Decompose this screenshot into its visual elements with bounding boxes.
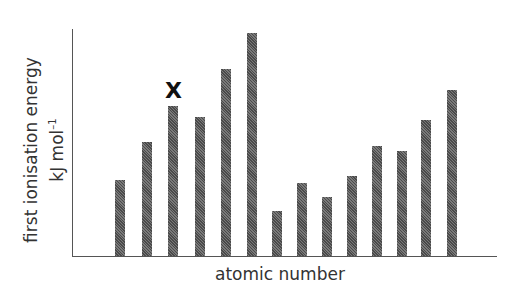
x-axis-label: atomic number <box>215 264 345 284</box>
bar <box>372 146 382 256</box>
y-axis-title: first ionisation energy <box>21 30 42 270</box>
bar <box>247 33 257 256</box>
bar <box>297 183 307 256</box>
y-axis-units: kJ mol–1 <box>42 30 68 270</box>
x-axis <box>72 256 497 257</box>
bar <box>447 90 457 256</box>
bar <box>195 117 205 256</box>
bar <box>397 151 407 256</box>
bar <box>272 211 282 256</box>
bar <box>221 69 231 256</box>
bar <box>322 197 332 256</box>
bar <box>115 180 125 256</box>
bar <box>421 120 431 256</box>
bar <box>347 176 357 256</box>
bar <box>142 142 152 256</box>
bar <box>168 106 178 256</box>
y-axis <box>72 29 73 257</box>
annotation-x: X <box>165 78 182 103</box>
y-axis-label: first ionisation energy kJ mol–1 <box>21 30 65 270</box>
